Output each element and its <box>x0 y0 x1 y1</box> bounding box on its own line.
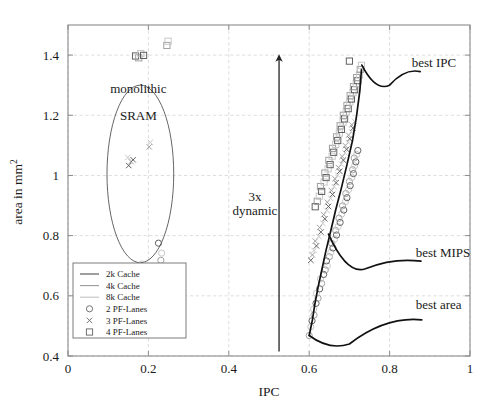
annotation-best-mips: best MIPS <box>416 245 471 260</box>
chart-svg: 00.20.40.60.81 0.40.60.811.21.4 IPC area… <box>0 0 488 408</box>
y-tick-label: 1.4 <box>43 48 60 63</box>
x-tick-label: 1 <box>467 361 474 376</box>
annotation-monolithic-sram-line1: monolithic <box>110 81 167 96</box>
annotation-best-area: best area <box>416 297 462 312</box>
y-tick-label: 0.6 <box>43 288 60 303</box>
y-axis-title-group: area in mm2 <box>9 159 25 225</box>
chart-legend: 2k Cache4k Cache8k Cache2 PF-Lanes3 PF-L… <box>73 263 186 338</box>
x-tick-label: 0 <box>65 361 72 376</box>
legend-label: 2k Cache <box>106 269 140 279</box>
legend-label: 3 PF-Lanes <box>106 316 148 326</box>
legend-label: 2 PF-Lanes <box>106 304 148 314</box>
annotation-best-ipc: best IPC <box>412 55 456 70</box>
y-tick-label: 1.2 <box>43 108 59 123</box>
y-tick-label: 1 <box>53 168 60 183</box>
x-tick-label: 0.8 <box>381 361 397 376</box>
x-tick-label: 0.2 <box>140 361 156 376</box>
legend-label: 8k Cache <box>106 292 140 302</box>
y-tick-label: 0.4 <box>43 349 60 364</box>
x-axis-title: IPC <box>258 384 279 399</box>
x-tick-label: 0.4 <box>221 361 238 376</box>
legend-label: 4k Cache <box>106 281 140 291</box>
legend-label: 4 PF-Lanes <box>106 327 148 337</box>
y-axis-title: area in mm2 <box>9 159 25 225</box>
scatter-chart-figure: 00.20.40.60.81 0.40.60.811.21.4 IPC area… <box>0 0 488 408</box>
y-tick-label: 0.8 <box>43 228 59 243</box>
annotation-dynamic-range-line2: dynamic <box>233 203 278 218</box>
x-tick-label: 0.6 <box>301 361 318 376</box>
annotation-monolithic-sram-line2: SRAM <box>120 108 157 123</box>
